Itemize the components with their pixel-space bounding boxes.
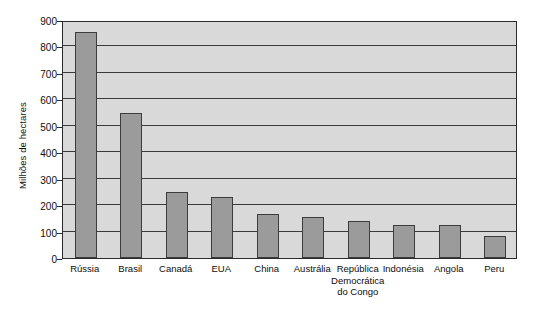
bar-angola [439,225,461,258]
x-label-peru: Peru [449,263,539,275]
y-tick-label-400: 400 [5,148,57,159]
bar-series [63,22,516,258]
bar-peru [484,236,506,258]
bar-brasil [120,113,142,258]
bar-r-ssia [75,32,97,258]
bar-canad [166,192,188,258]
y-tick-label-500: 500 [5,121,57,132]
bar-indon-sia [393,225,415,258]
x-axis-category-labels: RússiaBrasilCanadáEUAChinaAustráliaRepúb… [62,263,517,311]
y-tick-mark-0 [57,259,62,260]
bar-china [257,214,279,258]
bar-eua [211,197,233,258]
y-tick-label-300: 300 [5,174,57,185]
y-tick-label-800: 800 [5,42,57,53]
bar-austr-lia [302,217,324,258]
y-tick-label-200: 200 [5,201,57,212]
y-tick-label-900: 900 [5,16,57,27]
bar-chart: Milhões de hectares 90080070060050040030… [0,0,539,311]
y-tick-label-100: 100 [5,227,57,238]
y-tick-label-600: 600 [5,95,57,106]
y-tick-label-700: 700 [5,68,57,79]
plot-area [62,21,517,259]
bar-rep-blica-democr-tica-do-congo [348,221,370,258]
